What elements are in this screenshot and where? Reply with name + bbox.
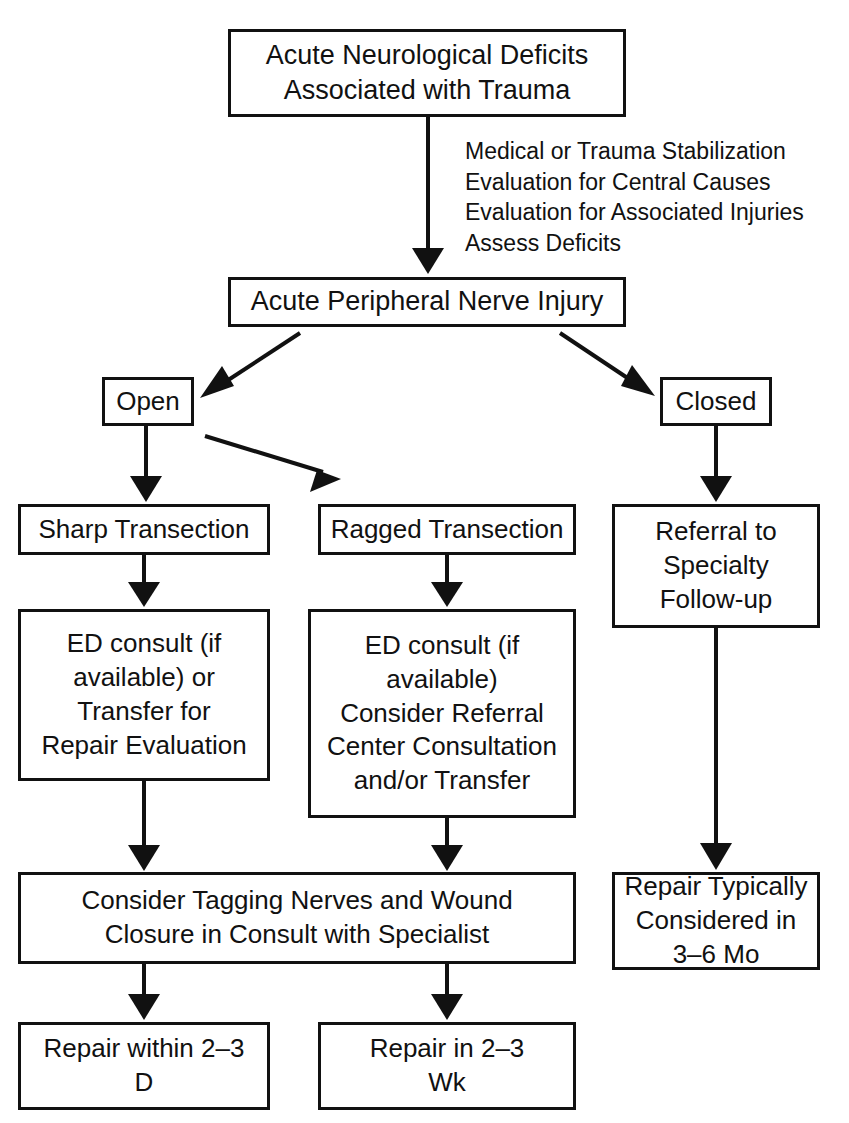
edge-open-to-ragged <box>205 436 341 492</box>
edge-edmid-to-tagging <box>431 818 463 871</box>
node-ed-consult-transfer: ED consult (if available) or Transfer fo… <box>18 609 270 781</box>
edge-ragged-to-edmid <box>431 555 463 607</box>
node-repair-within-days: Repair within 2–3 D <box>18 1022 270 1110</box>
node-acute-peripheral-nerve-injury: Acute Peripheral Nerve Injury <box>228 277 626 327</box>
edge-open-to-sharp <box>130 426 162 502</box>
edge-tagging-to-repairdays <box>128 964 160 1020</box>
edge-deficits-to-apni <box>412 117 444 274</box>
node-ed-consult-referral-center: ED consult (if available) Consider Refer… <box>308 609 576 818</box>
edge-apni-to-open <box>200 333 300 398</box>
node-repair-typically-considered: Repair Typically Considered in 3–6 Mo <box>612 872 820 970</box>
edge-apni-to-closed <box>560 333 655 396</box>
node-acute-neurological-deficits: Acute Neurological Deficits Associated w… <box>228 29 626 117</box>
node-open: Open <box>102 377 194 426</box>
node-ragged-transection: Ragged Transection <box>318 504 576 555</box>
flowchart-canvas: Acute Neurological Deficits Associated w… <box>0 0 849 1123</box>
edge-referral-to-repairtyp <box>700 628 732 870</box>
edge-sharp-to-edleft <box>128 555 160 607</box>
node-sharp-transection: Sharp Transection <box>18 504 270 555</box>
annotation-stabilization-steps: Medical or Trauma Stabilization Evaluati… <box>465 136 845 258</box>
node-repair-in-weeks: Repair in 2–3 Wk <box>318 1022 576 1110</box>
node-consider-tagging-nerves: Consider Tagging Nerves and Wound Closur… <box>18 872 576 964</box>
edge-closed-to-referral <box>700 426 732 502</box>
edge-edleft-to-tagging <box>128 781 160 871</box>
edge-tagging-to-repairweeks <box>431 964 463 1020</box>
node-referral-to-specialty: Referral to Specialty Follow-up <box>612 504 820 628</box>
node-closed: Closed <box>660 377 772 426</box>
